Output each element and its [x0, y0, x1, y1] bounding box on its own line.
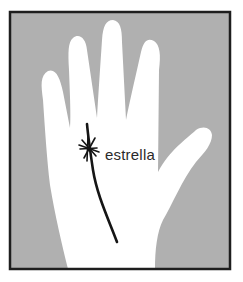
star-label: estrella: [105, 146, 155, 163]
palm-diagram: [0, 0, 243, 282]
